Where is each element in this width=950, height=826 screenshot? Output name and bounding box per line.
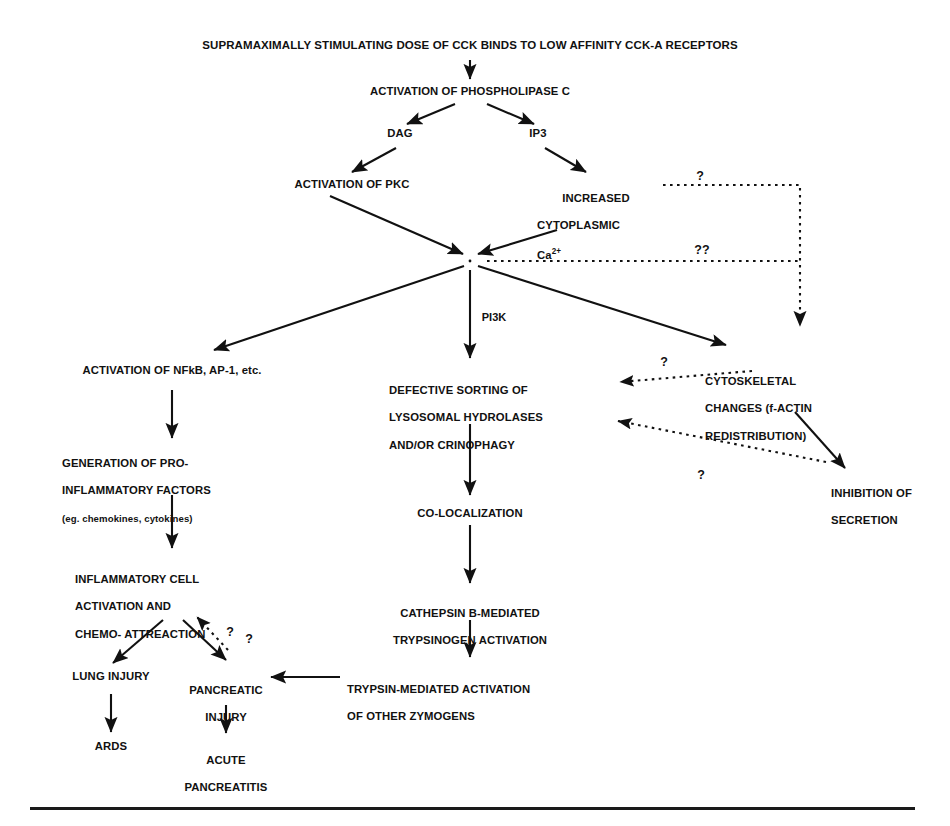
cytoskeletal-line-2: CHANGES (f-ACTIN [705,402,895,416]
sorting-line-1: DEFECTIVE SORTING OF [389,384,619,398]
sorting-line-2: LYSOSOMAL HYDROLASES [389,411,619,425]
acute-line-1: ACUTE [141,754,311,768]
node-increased-cytoplasmic-ca: INCREASED CYTOPLASMIC Ca2+ [537,178,677,276]
node-dag: DAG [360,127,440,141]
inflam-line-2: ACTIVATION AND [75,600,305,614]
node-activation-of-nfkb: ACTIVATION OF NFkB, AP-1, etc. [22,364,322,378]
node-co-localization: CO-LOCALIZATION [360,507,580,521]
edge-node-to-nfkb [214,266,464,350]
qmark-pancreatic-to-inflam-a: ? [226,625,234,639]
qmark-cytoskeletal-to-sorting: ? [660,355,668,369]
pancreatic-line-1: PANCREATIC [151,684,301,698]
proinflam-line-1: GENERATION OF PRO- [62,457,302,471]
acute-line-2: PANCREATITIS [141,781,311,795]
edge-plc-to-ip3 [487,104,534,124]
node-cytoskeletal-changes: CYTOSKELETAL CHANGES (f-ACTIN REDISTRIBU… [705,361,895,457]
proinflam-line-2: INFLAMMATORY FACTORS [62,484,302,498]
edge-node-to-cytoskeletal [478,266,726,345]
trypsin-line-2: OF OTHER ZYMOGENS [347,710,647,724]
edge-pkc-to-node [330,196,463,254]
pancreatic-line-2: INJURY [151,711,301,725]
dashed-edge-ca-to-cytoskeletal [663,185,800,326]
cathepsin-line-1: CATHEPSIN B-MEDIATED [340,607,600,621]
node-defective-sorting: DEFECTIVE SORTING OF LYSOSOMAL HYDROLASE… [389,370,619,466]
edge-dag-to-pkc [352,148,396,172]
node-acute-pancreatitis: ACUTE PANCREATITIS [141,740,311,809]
edge-plc-to-dag [407,104,455,124]
bottom-divider [30,807,915,810]
inhibition-line-1: INHIBITION OF [831,487,950,501]
ca-line-3: Ca2+ [537,247,677,263]
edge-ip3-to-ca [545,148,586,172]
ca-symbol: Ca [537,249,552,261]
ca-line-1: INCREASED [537,192,655,206]
edge-label-pi3k: PI3K [482,311,506,323]
qmark-node-to-cytoskeletal: ?? [694,243,709,257]
trypsin-line-1: TRYPSIN-MEDIATED ACTIVATION [347,683,647,697]
inhibition-line-2: SECRETION [831,514,950,528]
node-pancreatic-injury: PANCREATIC INJURY [151,670,301,739]
qmark-ca-to-cytoskeletal: ? [696,169,704,183]
cathepsin-line-2: TRYPSINOGEN ACTIVATION [340,634,600,648]
qmark-inhibition-to-sorting: ? [697,468,705,482]
qmark-pancreatic-to-inflam-b: ? [245,632,253,646]
node-activation-of-phospholipase-c: ACTIVATION OF PHOSPHOLIPASE C [260,85,680,99]
node-trypsin-mediated: TRYPSIN-MEDIATED ACTIVATION OF OTHER ZYM… [347,669,647,738]
node-cathepsin-b-mediated: CATHEPSIN B-MEDIATED TRYPSINOGEN ACTIVAT… [340,593,600,662]
cytoskeletal-line-1: CYTOSKELETAL [705,375,895,389]
node-ip3: IP3 [498,127,578,141]
inflam-line-1: INFLAMMATORY CELL [75,573,305,587]
node-inhibition-of-secretion: INHIBITION OF SECRETION [831,473,950,542]
pathway-diagram: SUPRAMAXIMALLY STIMULATING DOSE OF CCK B… [0,0,950,826]
proinflam-note: (eg. chemokines, cytokines) [62,513,302,525]
sorting-line-3: AND/OR CRINOPHAGY [389,439,619,453]
node-title: SUPRAMAXIMALLY STIMULATING DOSE OF CCK B… [90,38,850,52]
node-junction-dot [469,260,472,263]
node-pro-inflammatory-factors: GENERATION OF PRO- INFLAMMATORY FACTORS … [62,443,302,538]
node-activation-of-pkc: ACTIVATION OF PKC [227,178,477,192]
ca-charge: 2+ [552,247,561,256]
inflam-line-3: CHEMO- ATTREACTION [75,628,305,642]
cytoskeletal-line-3: REDISTRIBUTION) [705,430,895,444]
node-inflammatory-cell-activation: INFLAMMATORY CELL ACTIVATION AND CHEMO- … [75,559,305,655]
ca-line-2: CYTOPLASMIC [537,219,677,233]
